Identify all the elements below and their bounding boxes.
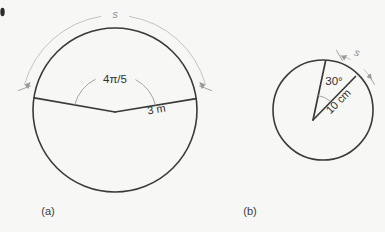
angle-arc-left-a (75, 79, 96, 105)
arc-label-a: s (112, 8, 118, 20)
caption-a: (a) (41, 205, 54, 217)
radius-left-b (313, 61, 326, 120)
tick-left-a (19, 86, 31, 91)
angle-arc-right-a (136, 80, 156, 106)
caption-b: (b) (243, 205, 256, 217)
arc-label-b: s (353, 46, 363, 59)
circle-a (33, 28, 197, 192)
panel-b: s 30° 10 cm (b) (243, 46, 374, 217)
radius-label-b: 10 cm (323, 86, 353, 116)
figures-svg: s 4π/5 3 m (a) (0, 0, 385, 232)
angle-label-b: 30° (325, 75, 342, 87)
arc-length-dimension-right-a (129, 16, 206, 84)
corner-mark (0, 8, 4, 16)
tick-right-b (369, 75, 375, 85)
tick-right-a (200, 86, 212, 91)
panel-a: s 4π/5 3 m (a) (19, 8, 212, 217)
radius-left-a (34, 98, 115, 112)
figure-container: s 4π/5 3 m (a) (0, 0, 385, 232)
angle-label-a: 4π/5 (103, 73, 127, 85)
radius-label-a: 3 m (146, 102, 166, 117)
arc-length-dimension-left-a (25, 16, 102, 84)
angle-arc-b (318, 96, 330, 102)
